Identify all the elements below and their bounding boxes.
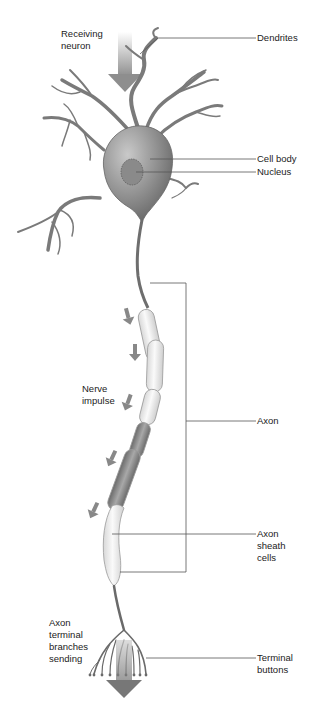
label-receiving-neuron: Receiving neuron xyxy=(61,28,103,52)
axon-hillock xyxy=(137,220,148,308)
neuron-diagram xyxy=(0,0,310,726)
label-nerve-impulse: Nerve impulse xyxy=(82,383,115,407)
label-nucleus: Nucleus xyxy=(257,166,291,178)
label-axon: Axon xyxy=(257,415,279,427)
cell-body xyxy=(103,126,172,222)
sending-arrow-icon xyxy=(106,640,142,698)
label-terminal-buttons: Terminal buttons xyxy=(257,652,293,676)
label-dendrites: Dendrites xyxy=(257,32,298,44)
label-axon-terminal-branches: Axon terminal branches sending xyxy=(49,617,88,665)
label-axon-sheath-cells: Axon sheath cells xyxy=(257,528,286,564)
label-cell-body: Cell body xyxy=(257,153,297,165)
